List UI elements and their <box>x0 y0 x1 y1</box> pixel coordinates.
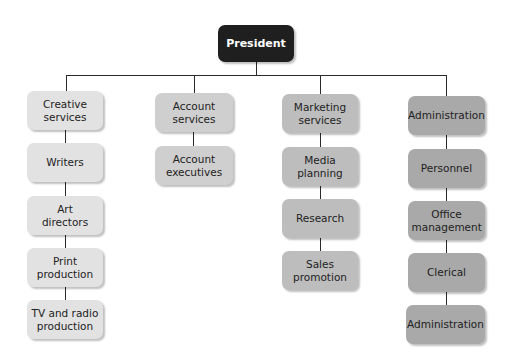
administration-label: Administration <box>408 109 485 122</box>
administration-sub-box: Administration <box>406 305 485 344</box>
connector-col1 <box>66 75 67 91</box>
president-label: President <box>226 37 286 50</box>
connector-col2 <box>194 75 195 93</box>
personnel-label: Personnel <box>421 162 472 175</box>
office-management-label: Office management <box>412 208 482 234</box>
administration-box: Administration <box>408 96 485 135</box>
creative-services-box: Creative services <box>27 91 103 130</box>
print-production-box: Print production <box>27 248 103 287</box>
writers-label: Writers <box>46 156 84 169</box>
research-label: Research <box>296 212 344 225</box>
marketing-services-box: Marketing services <box>282 94 358 133</box>
sales-promotion-label: Sales promotion <box>290 258 350 284</box>
clerical-box: Clerical <box>408 253 485 292</box>
office-management-box: Office management <box>408 201 485 240</box>
media-planning-label: Media planning <box>293 154 348 180</box>
research-box: Research <box>282 199 358 238</box>
connector-col4 <box>446 75 447 96</box>
org-chart: President Creative services Writers Art … <box>0 0 516 362</box>
art-directors-box: Art directors <box>27 196 103 235</box>
connector-col3 <box>320 75 321 94</box>
art-directors-label: Art directors <box>40 203 90 229</box>
writers-box: Writers <box>27 143 103 182</box>
account-executives-box: Account executives <box>155 146 233 185</box>
connector-president-down <box>256 62 257 76</box>
account-services-label: Account services <box>167 100 222 126</box>
tv-radio-production-label: TV and radio production <box>29 307 101 333</box>
marketing-services-label: Marketing services <box>290 101 350 127</box>
clerical-label: Clerical <box>427 266 466 279</box>
media-planning-box: Media planning <box>282 147 358 186</box>
account-services-box: Account services <box>155 93 233 132</box>
personnel-box: Personnel <box>408 149 485 188</box>
sales-promotion-box: Sales promotion <box>282 251 358 290</box>
tv-radio-production-box: TV and radio production <box>27 300 103 339</box>
president-box: President <box>218 25 294 62</box>
print-production-label: Print production <box>32 255 98 281</box>
account-executives-label: Account executives <box>164 153 224 179</box>
creative-services-label: Creative services <box>27 98 103 124</box>
administration-sub-label: Administration <box>407 318 484 331</box>
connector-horizontal <box>66 75 447 76</box>
